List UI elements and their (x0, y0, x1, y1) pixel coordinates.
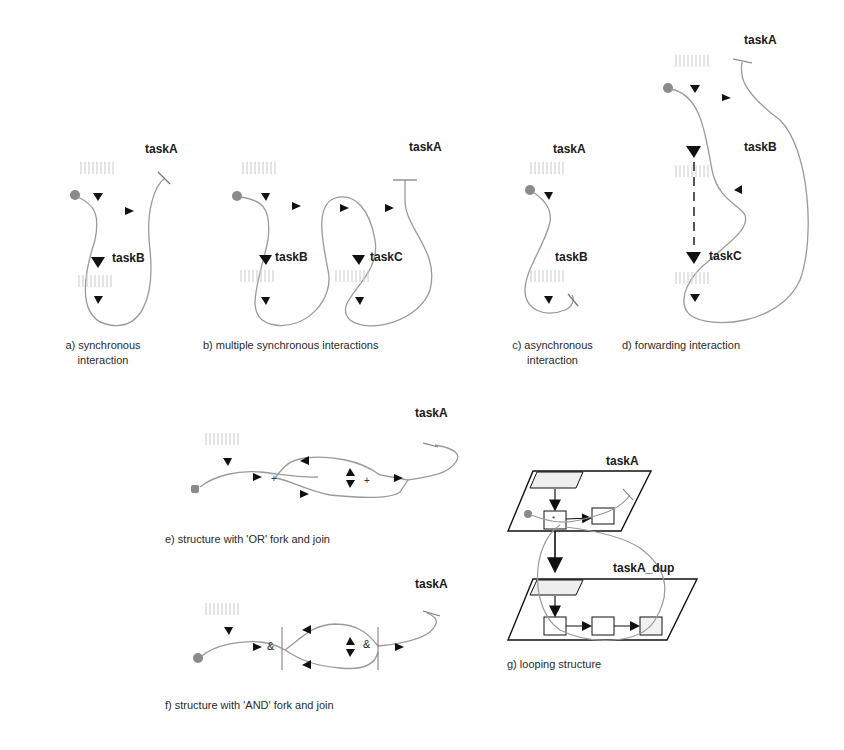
start-dot (191, 485, 199, 493)
caption-line-1: c) asynchronous (495, 338, 610, 353)
panel-a-synchronous (70, 172, 170, 326)
arrow-right-icon (292, 202, 301, 210)
arrow-down-icon (94, 296, 103, 304)
arrow-down-icon (261, 193, 270, 201)
faint-annotation (530, 270, 564, 282)
task-label-taskA: taskA (553, 142, 586, 156)
arrow-left-icon (734, 185, 742, 194)
arrow-down-large-icon (352, 255, 365, 265)
diagram-canvas: + + & & * (0, 0, 844, 750)
arrow-right-icon (394, 474, 403, 482)
arrow-right-icon (395, 643, 404, 651)
or-fork-symbol: + (271, 473, 277, 484)
execution-path (202, 613, 436, 668)
arrow-right-icon (253, 473, 262, 481)
arrow-right-icon (125, 207, 134, 215)
arrow-left-icon (300, 456, 309, 465)
faint-annotation (205, 603, 239, 615)
arrow-down-icon (544, 296, 553, 304)
start-dot (663, 83, 673, 93)
start-dot (525, 185, 535, 195)
arrow-up-icon (346, 468, 355, 476)
arrow-down-icon (346, 649, 355, 657)
arrow-down-icon (690, 294, 700, 302)
arrow-right-icon (253, 643, 262, 651)
task-label-taskA: taskA (744, 33, 777, 47)
and-join-symbol: & (363, 638, 371, 650)
panel-f-caption: f) structure with 'AND' fork and join (165, 698, 334, 713)
arrow-right-icon (340, 204, 349, 212)
start-dot (232, 191, 242, 201)
panel-e-or-fork-join: + + (191, 443, 458, 498)
arrow-down-large-icon (259, 255, 272, 265)
start-dot (524, 510, 532, 518)
arrow-down-icon (223, 458, 232, 466)
panel-c-caption: c) asynchronous interaction (495, 338, 610, 368)
arrow-down-icon (261, 297, 270, 305)
arrow-up-icon (346, 637, 355, 645)
task-label-taskB: taskB (112, 251, 145, 265)
arrow-down-large-icon (91, 257, 105, 268)
faint-annotation (675, 165, 709, 177)
faint-annotation (78, 275, 112, 287)
panel-g-looping: * (508, 471, 697, 640)
arrow-down-icon (346, 480, 355, 488)
task-label-taskA: taskA (409, 140, 442, 154)
caption-line-2: interaction (48, 353, 158, 368)
task-label-taskA: taskA (415, 406, 448, 420)
task-label-taskB: taskB (555, 250, 588, 264)
arrow-down-icon (224, 627, 233, 635)
start-dot (70, 190, 80, 200)
panel-e-caption: e) structure with 'OR' fork and join (165, 532, 330, 547)
arrow-down-icon (690, 85, 700, 93)
arrow-down-large-icon (686, 252, 701, 264)
arrow-right-icon (385, 204, 394, 212)
task-label-taskB: taskB (744, 140, 777, 154)
arrow-left-icon (302, 625, 311, 634)
task-label-taskC: taskC (709, 249, 742, 263)
task-label-taskC: taskC (370, 250, 403, 264)
task-label-taskA: taskA (415, 577, 448, 591)
caption-line-2: interaction (495, 353, 610, 368)
panel-d-caption: d) forwarding interaction (622, 338, 740, 353)
panel-a-caption: a) synchronous interaction (48, 338, 158, 368)
taskA-header-box (530, 472, 583, 488)
start-dot (193, 653, 203, 663)
faint-annotation (675, 272, 709, 284)
faint-annotation (530, 162, 564, 174)
and-fork-symbol: & (267, 640, 275, 652)
arrow-down-icon (544, 192, 553, 200)
faint-annotation (242, 162, 276, 174)
task-label-taskA: taskA (606, 454, 639, 468)
execution-path (200, 445, 458, 497)
task-label-taskA: taskA (145, 142, 178, 156)
task-label-taskA-dup: taskA_dup (613, 561, 674, 575)
panel-g-caption: g) looping structure (507, 657, 601, 672)
panel-b-caption: b) multiple synchronous interactions (203, 338, 378, 353)
faint-annotation (675, 55, 709, 67)
task-box (592, 617, 614, 635)
panel-f-and-fork-join: & & (193, 611, 440, 670)
faint-annotation (240, 270, 274, 282)
or-join-symbol: + (364, 475, 370, 486)
faint-annotation (205, 433, 239, 445)
arrow-down-large-icon (686, 146, 701, 158)
faint-annotation (335, 270, 369, 282)
arrow-right-icon (722, 94, 731, 101)
caption-line-1: a) synchronous (48, 338, 158, 353)
execution-path (240, 180, 432, 326)
faint-annotation (80, 162, 114, 174)
arrow-down-icon (93, 193, 103, 201)
arrow-right-icon (300, 490, 309, 498)
arrow-down-icon (355, 297, 364, 305)
task-label-taskB: taskB (275, 250, 308, 264)
